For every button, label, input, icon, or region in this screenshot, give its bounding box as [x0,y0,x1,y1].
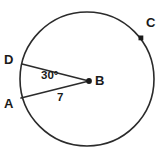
center-point-marker-b [86,78,92,84]
point-label-b: B [95,74,104,87]
point-marker-c [139,36,144,41]
geometry-figure: D A B C 30° 7 [0,0,165,156]
point-label-a: A [4,97,13,110]
radius-segment-ba [21,81,89,98]
point-label-c: C [146,16,155,29]
radius-measure-label: 7 [57,92,63,104]
angle-measure-label: 30° [41,70,58,82]
point-label-d: D [4,53,13,66]
geometry-canvas [0,0,165,156]
